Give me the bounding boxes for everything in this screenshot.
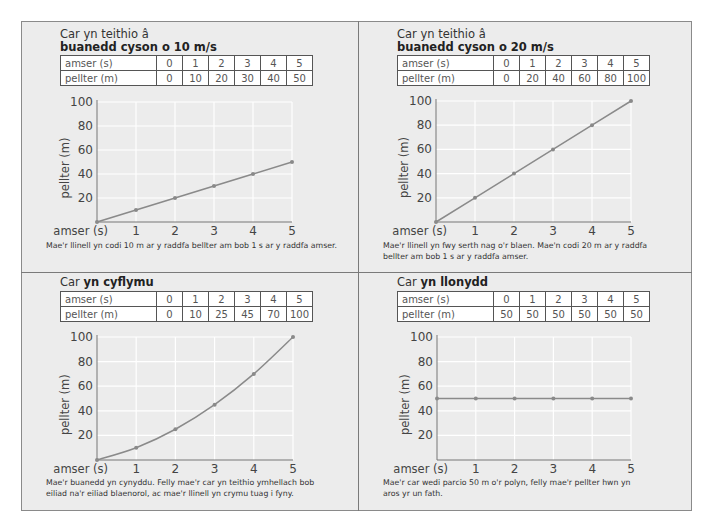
y-tick-label: 80	[418, 355, 433, 369]
panel-caption: Mae'r car wedi parcio 50 m o'r polyn, fe…	[383, 478, 630, 499]
x-tick-label: 4	[588, 462, 596, 476]
x-tick-label: 1	[472, 462, 480, 476]
data-point-marker	[435, 397, 439, 401]
x-tick-label: 2	[511, 462, 519, 476]
data-point-marker	[551, 397, 555, 401]
x-axis-label: amser (s)	[393, 462, 448, 476]
x-tick-label: 3	[550, 462, 558, 476]
y-tick-label: 100	[410, 330, 433, 344]
y-tick-label: 20	[418, 428, 433, 442]
data-point-marker	[590, 397, 594, 401]
data-point-marker	[474, 397, 478, 401]
caption-line: aros yr un fath.	[383, 489, 630, 500]
caption-line: Mae'r car wedi parcio 50 m o'r polyn, fe…	[383, 478, 630, 489]
y-tick-label: 40	[418, 404, 433, 418]
y-axis-label: pellter (m)	[398, 374, 412, 435]
data-point-marker	[629, 397, 633, 401]
y-tick-label: 60	[418, 379, 433, 393]
data-point-marker	[513, 397, 517, 401]
line-chart: 2040608010012345amser (s)pellter (m)	[0, 0, 714, 526]
x-tick-label: 5	[627, 462, 635, 476]
